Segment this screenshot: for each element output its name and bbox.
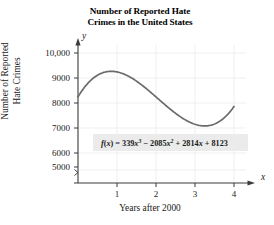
ytick-label-9000: 9000 — [52, 73, 71, 83]
ytick-label-7000: 7000 — [52, 123, 71, 133]
y-axis-arrow — [75, 38, 80, 46]
ytick-label-5000: 5000 — [52, 162, 71, 172]
grid-horizontal — [78, 53, 246, 170]
xtick-label-4: 4 — [232, 189, 237, 199]
y-ticks — [74, 53, 78, 167]
ytick-label-8000: 8000 — [52, 98, 71, 108]
y-axis — [75, 38, 80, 183]
ytick-label-6000: 6000 — [52, 148, 71, 158]
x-axis — [74, 180, 255, 185]
ytick-label-10000: 10,000 — [45, 48, 70, 58]
x-axis-arrow — [248, 180, 256, 185]
plot-area: 10,000 9000 8000 7000 6000 5000 1 2 3 4 … — [0, 0, 274, 225]
equation-annotation: f(x) = 339x3 − 2085x2 + 2814x + 8123 — [93, 134, 248, 151]
xtick-label-2: 2 — [154, 189, 159, 199]
xtick-label-3: 3 — [193, 189, 198, 199]
chart-figure: Number of Reported Hate Crimes in the Un… — [0, 0, 274, 225]
equation-text: f(x) = 339x3 − 2085x2 + 2814x + 8123 — [101, 138, 228, 148]
xtick-label-1: 1 — [115, 189, 120, 199]
y-axis-letter: y — [81, 31, 87, 41]
x-axis-letter: x — [260, 172, 266, 182]
x-ticks — [117, 183, 234, 187]
